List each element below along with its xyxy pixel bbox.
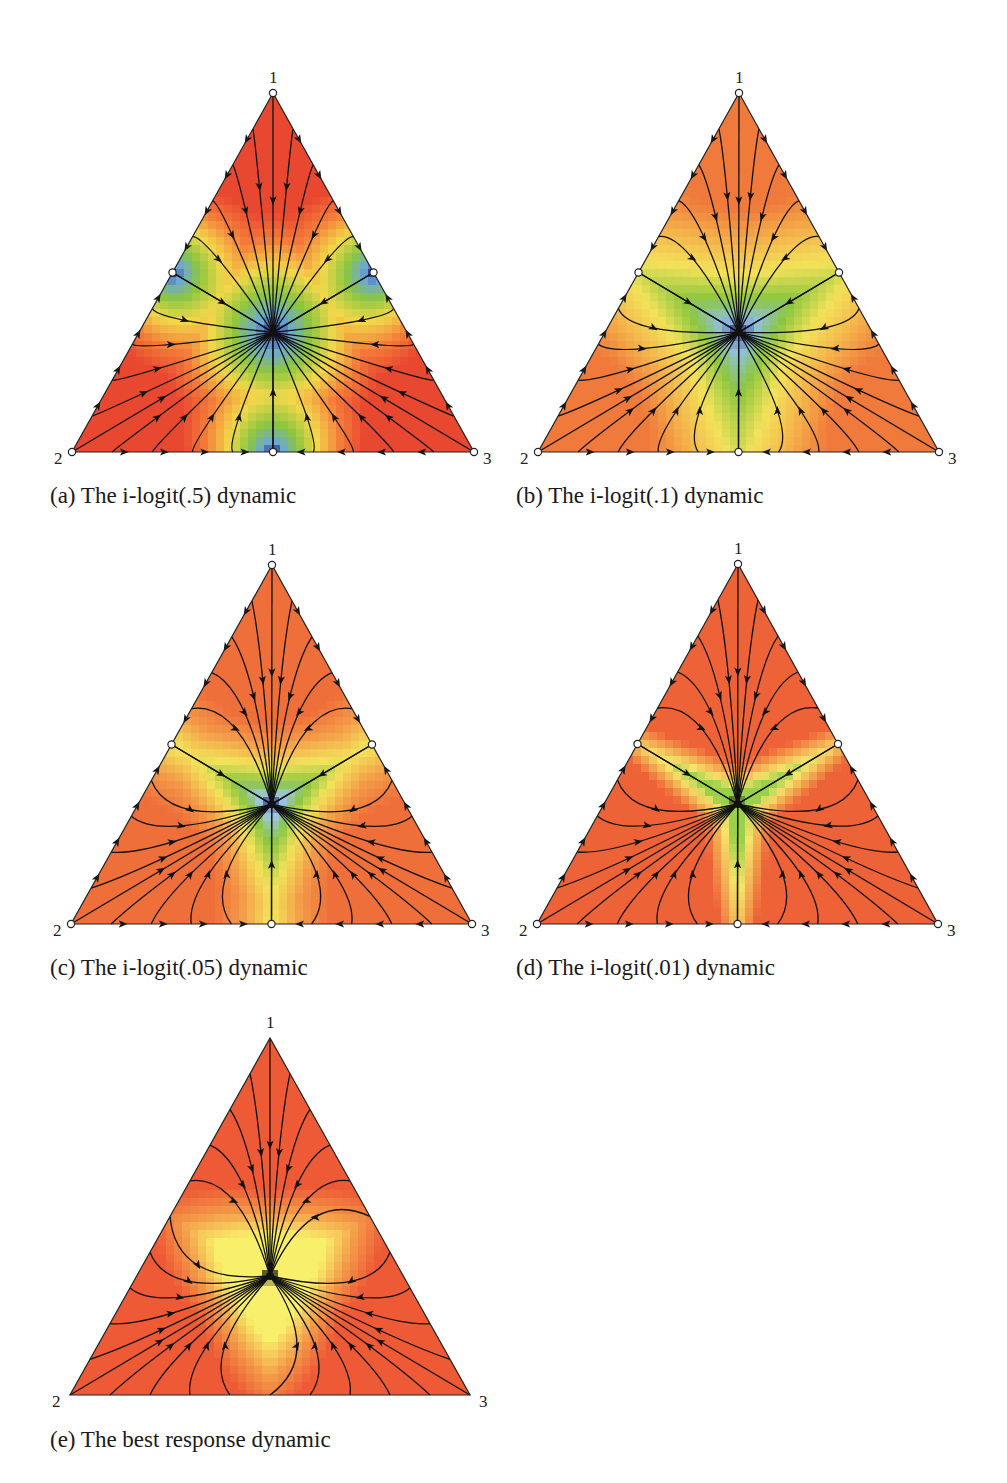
vertex-label-1: 1 xyxy=(266,1014,275,1031)
rest-point-stable xyxy=(266,1272,274,1280)
caption-e: (e) The best response dynamic xyxy=(50,1428,331,1451)
vertex-label-3: 3 xyxy=(479,1393,488,1410)
simplex-plot-e xyxy=(0,0,1007,1483)
vertex-label-2: 2 xyxy=(52,1393,61,1410)
